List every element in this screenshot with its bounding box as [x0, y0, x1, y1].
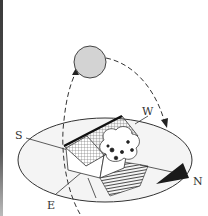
diagram-canvas	[0, 0, 208, 216]
compass-label-south: S	[15, 130, 23, 141]
compass-label-north: N	[193, 176, 203, 187]
compass-label-east: E	[47, 200, 55, 211]
sun-icon	[74, 46, 106, 78]
sun-path-diagram: S W N E	[0, 0, 208, 216]
compass-label-west: W	[142, 106, 153, 117]
